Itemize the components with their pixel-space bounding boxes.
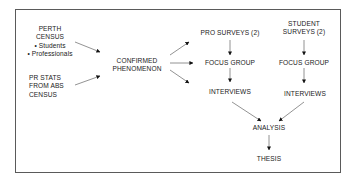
node-focus-group-student: FOCUS GROUP (272, 59, 336, 67)
node-thesis: THESIS (249, 155, 289, 163)
pr-stats-line-2: FROM ABS (29, 82, 64, 90)
node-interviews-student: INTERVIEWS (275, 90, 335, 98)
confirmed-line-2: PHENOMENON (106, 65, 168, 73)
focus-group-student-label: FOCUS GROUP (279, 59, 329, 66)
arrow-prstats-to-confirmed (75, 76, 100, 85)
student-surveys-line-2: SURVEYS (2) (278, 28, 330, 36)
student-surveys-line-1: STUDENT (278, 20, 330, 28)
thesis-label: THESIS (257, 155, 281, 162)
node-perth-census: PERTH CENSUS • Students • Professionals (24, 25, 76, 59)
focus-group-pro-label: FOCUS GROUP (205, 59, 255, 66)
pr-stats-line-3: CENSUS (29, 91, 64, 99)
interviews-student-label: INTERVIEWS (284, 90, 326, 97)
pr-stats-line-1: PR STATS (29, 74, 64, 82)
node-student-surveys: STUDENT SURVEYS (2) (278, 20, 330, 37)
analysis-label: ANALYSIS (253, 124, 286, 131)
node-analysis: ANALYSIS (244, 124, 294, 132)
arrow-perth-to-confirmed (75, 42, 100, 52)
arrow-confirmed-to-interviews (170, 70, 189, 83)
interviews-pro-label: INTERVIEWS (209, 88, 251, 95)
perth-census-title-2: CENSUS (24, 33, 76, 41)
perth-census-bullet-students: • Students (24, 42, 76, 50)
node-interviews-pro: INTERVIEWS (200, 88, 260, 96)
node-focus-group-pro: FOCUS GROUP (198, 59, 262, 67)
arrow-interviews-student-to-analysis (279, 102, 304, 121)
node-pr-stats: PR STATS FROM ABS CENSUS (29, 74, 64, 99)
node-confirmed-phenomenon: CONFIRMED PHENOMENON (106, 57, 168, 74)
pro-surveys-label: PRO SURVEYS (2) (201, 29, 260, 36)
perth-census-title-1: PERTH (24, 25, 76, 33)
confirmed-line-1: CONFIRMED (106, 57, 168, 65)
arrow-confirmed-to-prosurveys (170, 42, 189, 55)
arrow-interviews-pro-to-analysis (232, 102, 261, 121)
perth-census-bullet-professionals: • Professionals (24, 50, 76, 58)
node-pro-surveys: PRO SURVEYS (2) (196, 29, 264, 37)
